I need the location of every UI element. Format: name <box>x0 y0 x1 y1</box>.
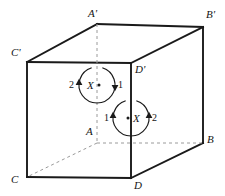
edge-D-C <box>27 177 131 178</box>
edge-A-C <box>27 143 97 177</box>
loop-upper-center-dot <box>98 84 101 87</box>
loop-upper-point-label: X <box>87 80 94 91</box>
edge-Dp-Bp <box>131 27 203 63</box>
cube-diagram-svg <box>0 0 225 196</box>
edge-Cp-Dp <box>27 62 131 63</box>
edge-Ap-Bp <box>97 24 203 27</box>
vertex-label-A: A <box>86 126 93 137</box>
vertex-label-D: D <box>134 180 142 191</box>
loop-lower-left-arrowhead <box>110 112 117 118</box>
loop-lower-left-number: 1 <box>104 113 109 123</box>
edge-Cp-Ap <box>27 24 97 62</box>
cube-edges <box>27 24 203 178</box>
vertex-label-C-prime: C' <box>11 47 21 58</box>
loop-upper-left-number: 2 <box>69 80 74 90</box>
loop-upper-left-arrowhead <box>76 79 83 85</box>
loop-lower-right-number: 2 <box>152 113 157 123</box>
vertex-label-B-prime: B' <box>206 9 215 20</box>
edge-D-B <box>131 143 203 178</box>
vertex-label-D-prime: D' <box>135 64 145 75</box>
loop-upper-right-number: 1 <box>118 80 123 90</box>
loop-lower-point-label: X <box>133 113 140 124</box>
vertex-label-B: B <box>207 134 214 145</box>
vertex-label-C: C <box>11 174 18 185</box>
loop-lower-center-dot <box>127 117 130 120</box>
vertex-label-A-prime: A' <box>88 8 97 19</box>
cube-figure: A'B'C'D'ABCDX21X12 <box>0 0 225 196</box>
